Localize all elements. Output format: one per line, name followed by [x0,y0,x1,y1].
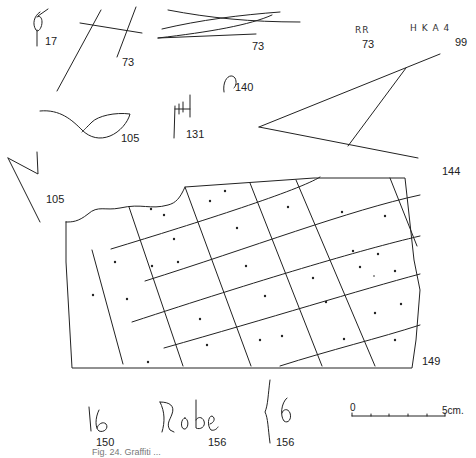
label-105-zigzag: 105 [46,194,64,205]
slab-149 [66,177,420,368]
scale-start-label: 0 [350,402,356,413]
label-73-crossed: 73 [122,57,134,68]
sign-73-crossed-lines [57,7,142,91]
label-99: 99 [455,37,467,48]
label-156-brace6: 156 [276,437,294,448]
text-hka4: H K A 4 [410,23,450,33]
label-105-leaf: 105 [121,133,139,144]
script-150 [89,407,107,431]
script-156-brace6 [265,380,291,443]
scale-end-label: 5cm. [442,405,464,416]
label-144: 144 [442,166,460,177]
label-149: 149 [422,356,440,367]
sign-105-leaf [40,111,130,138]
sign-73-converging-lines [158,10,300,38]
label-156-robe: 156 [208,437,226,448]
sign-144-triangle [259,54,440,158]
label-131: 131 [186,129,204,140]
label-73-rr: 73 [362,39,374,50]
graffiti-figure [0,0,476,458]
slab-dots [92,190,402,363]
text-rr: RR [355,25,370,35]
script-156-robe [160,400,218,432]
label-73-converging: 73 [252,41,264,52]
scale-bar [352,413,445,416]
sign-105-zigzag [8,152,40,222]
figure-caption: Fig. 24. Graffiti ... [92,447,161,457]
label-140: 140 [235,82,253,93]
label-17: 17 [45,36,57,47]
